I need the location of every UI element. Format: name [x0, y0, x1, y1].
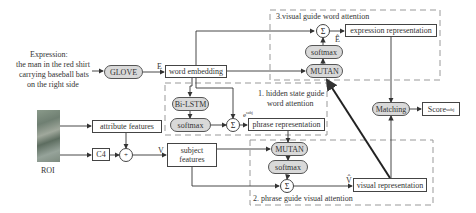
- mutan-node-3: MUTAN: [306, 64, 343, 78]
- visual-representation-box: visual representation: [353, 178, 427, 192]
- phrase-representation-box: phrase representation: [248, 118, 325, 131]
- score-box: Scoresubj: [422, 102, 460, 116]
- word-embedding-box: word embedding: [165, 65, 227, 78]
- matching-node: Matching: [372, 102, 410, 116]
- c4-box: C4: [92, 148, 110, 161]
- plus-node: +: [119, 148, 133, 162]
- group1-label-line2: word attention: [267, 99, 313, 108]
- expression-line-3: on the right side: [27, 80, 79, 89]
- subject-features-line1: subject: [181, 146, 204, 155]
- score-label: Score: [428, 105, 446, 114]
- edge-label-v-hat: V̂: [346, 176, 352, 185]
- sum-node-2: Σ: [280, 179, 294, 193]
- mutan-node-2: MUTAN: [271, 142, 308, 156]
- softmax-node-2: softmax: [268, 160, 308, 174]
- edge-label-e-hat: Ê: [335, 35, 340, 44]
- expression-label: Expression:: [30, 50, 68, 59]
- sum-node-3: Σ: [316, 24, 330, 38]
- sum-node-1: Σ: [226, 118, 240, 132]
- expression-line-1: the man in the red shirt: [16, 60, 90, 69]
- roi-image: [37, 110, 60, 162]
- expression-representation-box: expression representation: [345, 24, 437, 37]
- edge-label-v: V: [158, 146, 164, 155]
- softmax-node-1: softmax: [170, 118, 211, 132]
- subject-features-box: subject features: [167, 143, 217, 167]
- softmax-node-3: softmax: [305, 45, 343, 59]
- attribute-features-box: attribute features: [92, 120, 162, 133]
- edge-label-e: E: [157, 62, 162, 71]
- score-subscript: subj: [446, 105, 454, 114]
- group3-label: 3.visual guide word attention: [276, 12, 369, 21]
- subject-features-line2: features: [179, 155, 204, 164]
- group1-label-line1: 1. hidden state guide: [258, 89, 324, 98]
- glove-node: GLOVE: [104, 65, 143, 79]
- model-architecture-diagram: Expression: the man in the red shirt car…: [0, 0, 476, 213]
- bilstm-node: Bi-LSTM: [172, 97, 209, 111]
- expression-line-2: carrying baseball bats: [19, 70, 89, 79]
- group2-label: 2. phrase guide visual attention: [253, 194, 353, 203]
- roi-label: ROI: [41, 166, 55, 175]
